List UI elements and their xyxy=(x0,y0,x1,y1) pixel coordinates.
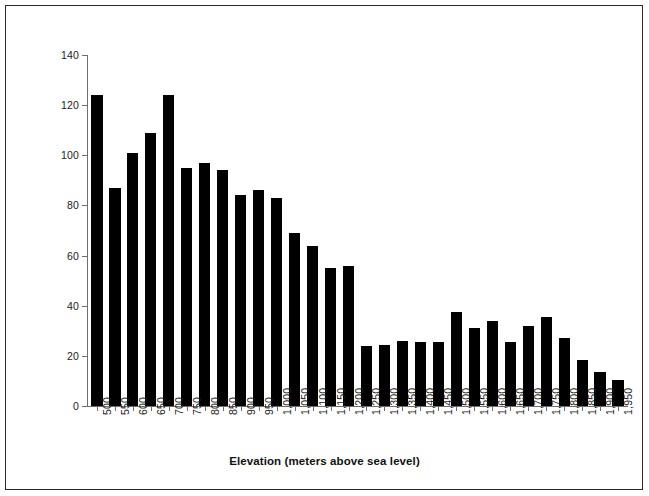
bar-rect xyxy=(181,168,192,406)
x-tick-label: 700 xyxy=(173,397,185,415)
bar xyxy=(145,55,156,406)
x-tick-label: 950 xyxy=(263,397,275,415)
bar xyxy=(307,55,318,406)
x-tick-label: 1,150 xyxy=(335,388,347,415)
x-tick-mark xyxy=(420,406,421,411)
x-tick-label: 750 xyxy=(191,397,203,415)
x-tick-mark xyxy=(528,406,529,411)
x-tick-label: 850 xyxy=(227,397,239,415)
x-tick-label: 1,550 xyxy=(478,388,490,415)
bar xyxy=(505,55,516,406)
x-tick-mark xyxy=(277,406,278,411)
x-tick-label: 1,100 xyxy=(317,388,329,415)
bar xyxy=(199,55,210,406)
x-tick-mark xyxy=(313,406,314,411)
bar-rect xyxy=(127,153,138,406)
x-tick-label: 500 xyxy=(101,397,113,415)
x-tick-mark xyxy=(331,406,332,411)
x-tick-mark xyxy=(295,406,296,411)
bar xyxy=(235,55,246,406)
bar xyxy=(397,55,408,406)
bar xyxy=(181,55,192,406)
x-axis-title: Elevation (meters above sea level) xyxy=(0,455,649,467)
x-tick-label: 600 xyxy=(137,397,149,415)
x-tick-label: 550 xyxy=(119,397,131,415)
x-tick-label: 1,050 xyxy=(299,388,311,415)
y-tick-label: 0 xyxy=(73,400,79,412)
x-tick-label: 1,700 xyxy=(532,388,544,415)
x-tick-mark xyxy=(438,406,439,411)
x-tick-mark xyxy=(510,406,511,411)
x-tick-label: 1,750 xyxy=(550,388,562,415)
x-tick-mark xyxy=(456,406,457,411)
x-tick-mark xyxy=(366,406,367,411)
bar xyxy=(469,55,480,406)
bar-rect xyxy=(199,163,210,406)
y-tick-label: 140 xyxy=(61,49,79,61)
x-tick-label: 1,400 xyxy=(424,388,436,415)
bar-rect xyxy=(289,233,300,406)
x-tick-label: 1,250 xyxy=(370,388,382,415)
bar xyxy=(289,55,300,406)
bar xyxy=(487,55,498,406)
bar xyxy=(451,55,462,406)
x-tick-mark xyxy=(241,406,242,411)
figure-canvas: Number of species Elevation (meters abov… xyxy=(0,0,649,496)
y-tick-label: 40 xyxy=(67,300,79,312)
bar xyxy=(253,55,264,406)
bar-rect xyxy=(109,188,120,406)
bar xyxy=(415,55,426,406)
bar-rect xyxy=(343,266,354,406)
bar-rect xyxy=(235,195,246,406)
bar xyxy=(163,55,174,406)
bar xyxy=(361,55,372,406)
plot-area: 020406080100120140 500550600650700750800… xyxy=(88,55,627,406)
bar-series xyxy=(88,55,627,406)
bar xyxy=(541,55,552,406)
bar xyxy=(217,55,228,406)
bar-rect xyxy=(145,133,156,406)
bar xyxy=(523,55,534,406)
bar-rect xyxy=(163,95,174,406)
y-tick-label: 80 xyxy=(67,199,79,211)
bar-rect xyxy=(271,198,282,406)
x-tick-label: 1,500 xyxy=(460,388,472,415)
x-tick-label: 1,900 xyxy=(604,388,616,415)
x-tick-label: 1,000 xyxy=(281,388,293,415)
x-tick-mark xyxy=(618,406,619,411)
x-tick-label: 1,950 xyxy=(622,388,634,415)
x-tick-mark xyxy=(151,406,152,411)
x-tick-label: 1,600 xyxy=(496,388,508,415)
bar-rect xyxy=(217,170,228,406)
x-tick-mark xyxy=(205,406,206,411)
x-tick-label: 1,650 xyxy=(514,388,526,415)
bar-rect xyxy=(307,246,318,406)
bar xyxy=(127,55,138,406)
x-tick-mark xyxy=(474,406,475,411)
bar xyxy=(433,55,444,406)
bar xyxy=(379,55,390,406)
bar-rect xyxy=(91,95,102,406)
x-tick-label: 1,800 xyxy=(568,388,580,415)
x-tick-mark xyxy=(187,406,188,411)
x-tick-mark xyxy=(169,406,170,411)
bar xyxy=(325,55,336,406)
x-tick-label: 800 xyxy=(209,397,221,415)
x-tick-label: 1,450 xyxy=(442,388,454,415)
y-tick-mark xyxy=(82,406,88,407)
y-tick-label: 20 xyxy=(67,350,79,362)
bar-rect xyxy=(253,190,264,406)
bar xyxy=(559,55,570,406)
bar xyxy=(109,55,120,406)
x-tick-mark xyxy=(402,406,403,411)
x-tick-mark xyxy=(223,406,224,411)
bar xyxy=(271,55,282,406)
x-tick-mark xyxy=(259,406,260,411)
x-tick-mark xyxy=(97,406,98,411)
y-tick-label: 60 xyxy=(67,250,79,262)
x-tick-mark xyxy=(564,406,565,411)
x-tick-mark xyxy=(133,406,134,411)
x-tick-label: 1,300 xyxy=(388,388,400,415)
bar xyxy=(612,55,623,406)
x-tick-label: 1,850 xyxy=(586,388,598,415)
